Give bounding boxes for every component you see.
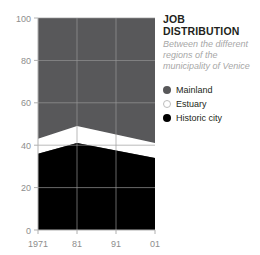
- chart-subtitle: Between the different regions of the mun…: [163, 39, 255, 72]
- y-axis-ticks: [34, 18, 38, 230]
- legend-label-historic-city: Historic city: [176, 113, 222, 123]
- y-tick-label-0: 0: [26, 226, 31, 236]
- chart-title: JOB DISTRIBUTION: [163, 13, 259, 37]
- stacked-area-chart: 100 80 60 40 20 0 1971 81 91 01: [0, 0, 165, 255]
- x-tick-label-91: 91: [111, 239, 121, 249]
- y-tick-label-60: 60: [21, 98, 31, 108]
- area-mainland: [38, 18, 155, 143]
- x-tick-label-1971: 1971: [28, 239, 48, 249]
- y-tick-label-100: 100: [16, 14, 31, 24]
- chart-legend: Mainland Estuary Historic city: [163, 83, 259, 124]
- legend-item-mainland: Mainland: [163, 83, 259, 96]
- y-tick-label-20: 20: [21, 183, 31, 193]
- x-tick-label-01: 01: [150, 239, 160, 249]
- chart-page: 100 80 60 40 20 0 1971 81 91 01 JOB DIST…: [0, 0, 260, 255]
- y-tick-label-80: 80: [21, 56, 31, 66]
- legend-item-historic-city: Historic city: [163, 111, 259, 124]
- y-tick-label-40: 40: [21, 141, 31, 151]
- chart-info-panel: JOB DISTRIBUTION Between the different r…: [163, 13, 259, 125]
- x-axis-ticks: [38, 230, 155, 234]
- legend-label-estuary: Estuary: [176, 99, 207, 109]
- legend-marker-filled-circle-black-icon: [163, 114, 171, 122]
- legend-marker-hollow-circle-icon: [163, 100, 171, 108]
- legend-label-mainland: Mainland: [176, 85, 213, 95]
- legend-marker-filled-circle-icon: [163, 86, 171, 94]
- legend-item-estuary: Estuary: [163, 97, 259, 110]
- x-tick-label-81: 81: [72, 239, 82, 249]
- area-historic: [38, 143, 155, 230]
- chart-canvas: 100 80 60 40 20 0 1971 81 91 01: [0, 0, 165, 255]
